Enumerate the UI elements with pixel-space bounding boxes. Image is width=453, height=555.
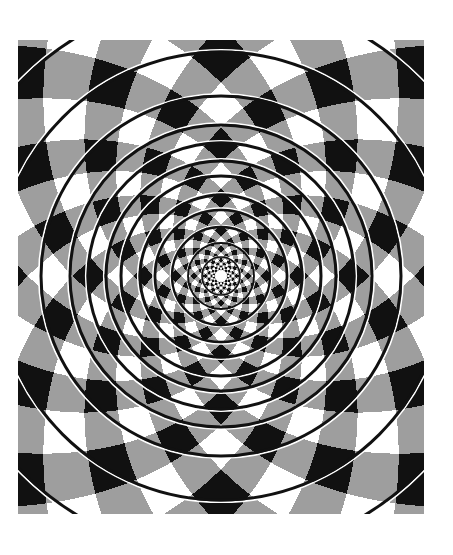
fraser-spiral-illusion: Fraser spiral illusion [18,40,424,514]
cord-circles-overlay [18,40,424,514]
center-dot [215,270,227,282]
